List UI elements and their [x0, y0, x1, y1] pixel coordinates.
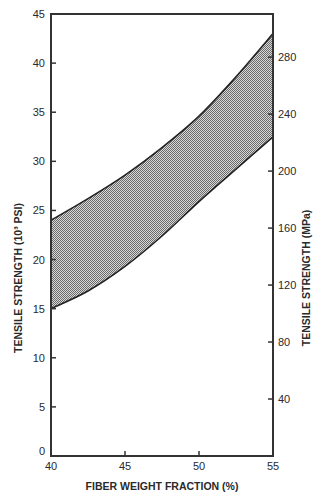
y-left-tick-label: 5	[39, 401, 45, 413]
y-right-tick-label: 160	[278, 222, 296, 234]
y-right-tick-label: 280	[278, 51, 296, 63]
y-left-tick-label: 0	[39, 445, 45, 457]
x-tick-label: 45	[119, 460, 131, 472]
y-left-tick-label: 45	[33, 8, 45, 20]
strength-band-fill	[51, 34, 273, 309]
y-left-tick-label: 35	[33, 106, 45, 118]
y-left-tick-label: 10	[33, 352, 45, 364]
y-right-tick-label: 240	[278, 108, 296, 120]
tensile-strength-chart: 4045505505101520253035404540801201602002…	[0, 0, 324, 501]
y-right-tick-label: 80	[278, 336, 290, 348]
y-left-tick-label: 15	[33, 303, 45, 315]
y-left-tick-label: 40	[33, 57, 45, 69]
y-left-tick-label: 30	[33, 155, 45, 167]
y-right-tick-label: 200	[278, 165, 296, 177]
y-axis-left-title: TENSILE STRENGTH (10³ PSI)	[12, 203, 24, 353]
x-tick-label: 40	[45, 460, 57, 472]
y-right-tick-label: 40	[278, 393, 290, 405]
y-left-tick-label: 20	[33, 254, 45, 266]
x-axis-title: FIBER WEIGHT FRACTION (%)	[86, 480, 239, 492]
x-tick-label: 55	[267, 460, 279, 472]
y-right-tick-label: 120	[278, 279, 296, 291]
x-tick-label: 50	[193, 460, 205, 472]
y-left-tick-label: 25	[33, 204, 45, 216]
y-axis-right-title: TENSILE STRENGTH (MPa)	[300, 210, 312, 347]
